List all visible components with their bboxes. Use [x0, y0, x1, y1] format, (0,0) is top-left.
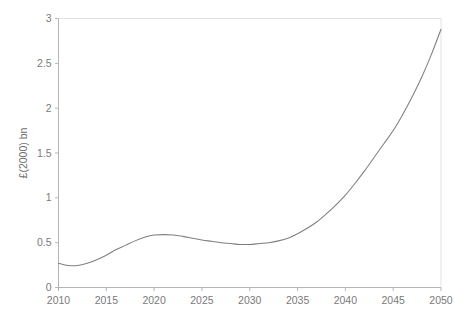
x-tick-label: 2015 — [95, 294, 119, 306]
y-tick-label: 1 — [46, 191, 52, 203]
y-tick-label: 0 — [46, 281, 52, 293]
y-tick-label: 3 — [46, 12, 52, 24]
x-tick-label: 2050 — [429, 294, 453, 306]
chart-background — [0, 0, 471, 323]
x-tick-label: 2010 — [47, 294, 71, 306]
x-axis-tick-labels: 201020152020202520302035204020452050 — [47, 294, 453, 306]
x-tick-label: 2020 — [142, 294, 166, 306]
y-tick-label: 2 — [46, 102, 52, 114]
x-tick-label: 2030 — [238, 294, 262, 306]
chart-figure: 00.511.522.53 20102015202020252030203520… — [0, 0, 471, 323]
x-tick-label: 2035 — [286, 294, 310, 306]
y-axis-title: £(2000) bn — [17, 127, 29, 178]
line-chart: 00.511.522.53 20102015202020252030203520… — [0, 0, 471, 323]
x-tick-label: 2025 — [190, 294, 214, 306]
y-tick-label: 0.5 — [37, 236, 52, 248]
x-tick-label: 2040 — [334, 294, 358, 306]
x-tick-label: 2045 — [382, 294, 406, 306]
y-tick-label: 2.5 — [37, 57, 52, 69]
y-tick-label: 1.5 — [37, 147, 52, 159]
